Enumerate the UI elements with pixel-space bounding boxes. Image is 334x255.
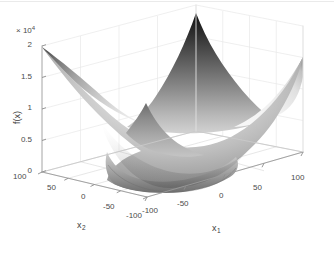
x1-tick-label-0: 0 (219, 192, 223, 200)
surface-plot-svg (0, 0, 334, 255)
surface-left-wing (42, 47, 152, 127)
z-axis-label: f(x) (13, 111, 22, 124)
x2-tick-label-100: 100 (13, 173, 26, 181)
surface-mesh (42, 13, 303, 193)
x1-tick-label-minus50: -50 (177, 200, 189, 208)
x2-axis-label: x2 (77, 221, 85, 230)
x2-axis-label-text: x (77, 220, 82, 230)
z-exponent-power: 4 (32, 25, 35, 31)
x1-tick-label-100: 100 (291, 174, 304, 182)
x1-tick-label-minus100: -100 (142, 207, 158, 215)
z-axis-exponent-label: × 104 (16, 27, 35, 35)
z-tick-label-1-5: 1.5 (10, 73, 32, 81)
z-tick-label-0-5: 0.5 (10, 136, 32, 144)
x1-axis-label-sub: 1 (217, 227, 221, 234)
x1-axis-label: x1 (212, 224, 220, 233)
x1-axis-label-text: x (212, 223, 217, 233)
x2-axis-label-sub: 2 (82, 224, 86, 231)
x1-tick-label-50: 50 (253, 184, 262, 192)
x2-tick-label-50: 50 (47, 184, 56, 192)
x2-tick-label-minus100: -100 (126, 212, 142, 220)
x2-tick-label-minus50: -50 (103, 203, 115, 211)
x2-tick-label-0: 0 (81, 193, 85, 201)
z-tick-label-2: 2 (14, 41, 32, 49)
z-axis-label-text: f(x) (12, 111, 22, 124)
figure-canvas: × 104 2 1.5 1 0.5 0 100 50 0 -50 -100 -1… (0, 0, 334, 255)
z-exponent-prefix: × 10 (16, 26, 32, 35)
